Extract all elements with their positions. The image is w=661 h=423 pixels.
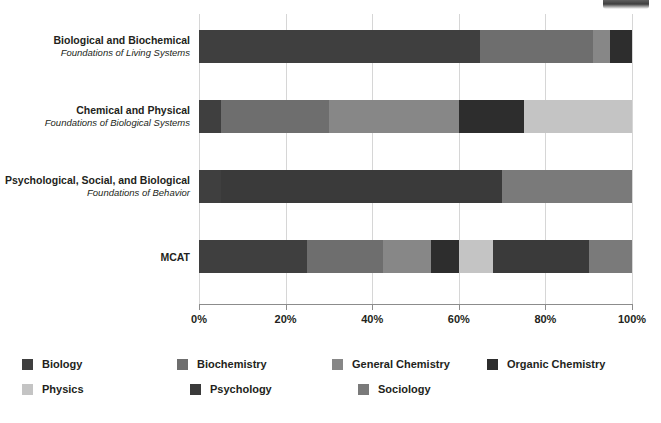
bar-segment — [221, 100, 329, 133]
legend-label: Biology — [42, 358, 82, 370]
legend-label: Physics — [42, 383, 84, 395]
bar-segment — [431, 240, 459, 273]
legend-item[interactable]: Organic Chemistry — [487, 358, 642, 370]
bar-segment — [221, 170, 502, 203]
x-axis-tick — [459, 304, 460, 310]
stacked-bar-chart: 0%20%40%60%80%100% Biological and Bioche… — [0, 0, 661, 423]
legend-label: Biochemistry — [197, 358, 267, 370]
legend-item[interactable]: Psychology — [190, 383, 358, 395]
x-axis-tick-label: 60% — [448, 313, 470, 325]
bar-segment — [199, 170, 221, 203]
legend-swatch-biochemistry — [177, 359, 188, 370]
bar-row — [199, 30, 632, 63]
legend-label: Psychology — [210, 383, 272, 395]
category-label: Biological and BiochemicalFoundations of… — [0, 34, 190, 58]
category-label-primary: MCAT — [0, 251, 190, 264]
legend-item[interactable]: General Chemistry — [332, 358, 487, 370]
legend-swatch-sociology — [358, 384, 369, 395]
gridline — [632, 14, 633, 304]
category-label: Psychological, Social, and BiologicalFou… — [0, 174, 190, 198]
category-label-secondary: Foundations of Behavior — [0, 187, 190, 199]
legend-swatch-general-chemistry — [332, 359, 343, 370]
x-axis-tick-label: 40% — [361, 313, 383, 325]
legend-label: General Chemistry — [352, 358, 450, 370]
x-axis-tick — [199, 304, 200, 310]
legend-swatch-psychology — [190, 384, 201, 395]
bar-segment — [593, 30, 610, 63]
bar-segment — [307, 240, 383, 273]
bar-row — [199, 100, 632, 133]
bar-segment — [459, 240, 494, 273]
category-label-primary: Psychological, Social, and Biological — [0, 174, 190, 187]
bar-segment — [199, 100, 221, 133]
legend-swatch-physics — [22, 384, 33, 395]
category-label-primary: Biological and Biochemical — [0, 34, 190, 47]
bar-segment — [610, 30, 632, 63]
legend-item[interactable]: Sociology — [358, 383, 526, 395]
legend-item[interactable]: Biology — [22, 358, 177, 370]
bar-row — [199, 240, 632, 273]
x-axis-tick-label: 100% — [618, 313, 646, 325]
chart-legend: BiologyBiochemistryGeneral ChemistryOrga… — [22, 358, 642, 408]
x-axis-tick — [286, 304, 287, 310]
x-axis-tick-label: 20% — [275, 313, 297, 325]
bar-segment — [493, 240, 588, 273]
category-label-secondary: Foundations of Living Systems — [0, 47, 190, 59]
bar-segment — [199, 30, 480, 63]
bar-segment — [459, 100, 524, 133]
bar-segment — [329, 100, 459, 133]
category-label-primary: Chemical and Physical — [0, 104, 190, 117]
bar-segment — [383, 240, 431, 273]
bar-row — [199, 170, 632, 203]
x-axis-tick — [632, 304, 633, 310]
plot-area: 0%20%40%60%80%100% — [199, 14, 632, 304]
category-label: MCAT — [0, 251, 190, 264]
legend-label: Organic Chemistry — [507, 358, 605, 370]
legend-label: Sociology — [378, 383, 431, 395]
bar-segment — [589, 240, 632, 273]
page-corner-artifact — [603, 0, 649, 9]
x-axis-line — [199, 304, 632, 305]
bar-segment — [480, 30, 593, 63]
legend-row: PhysicsPsychologySociology — [22, 383, 642, 395]
x-axis-tick — [372, 304, 373, 310]
x-axis-tick-label: 80% — [534, 313, 556, 325]
category-label-secondary: Foundations of Biological Systems — [0, 117, 190, 129]
category-label: Chemical and PhysicalFoundations of Biol… — [0, 104, 190, 128]
legend-row: BiologyBiochemistryGeneral ChemistryOrga… — [22, 358, 642, 370]
bar-segment — [199, 240, 307, 273]
bar-segment — [524, 100, 632, 133]
legend-item[interactable]: Physics — [22, 383, 190, 395]
bar-segment — [502, 170, 632, 203]
x-axis-tick-label: 0% — [191, 313, 207, 325]
legend-item[interactable]: Biochemistry — [177, 358, 332, 370]
legend-swatch-biology — [22, 359, 33, 370]
legend-swatch-organic-chemistry — [487, 359, 498, 370]
x-axis-tick — [545, 304, 546, 310]
